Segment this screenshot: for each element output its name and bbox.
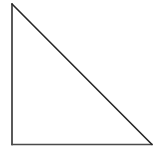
right-triangle-figure [0,0,160,152]
figure-canvas: A right triangle with the right angle at… [0,0,160,152]
